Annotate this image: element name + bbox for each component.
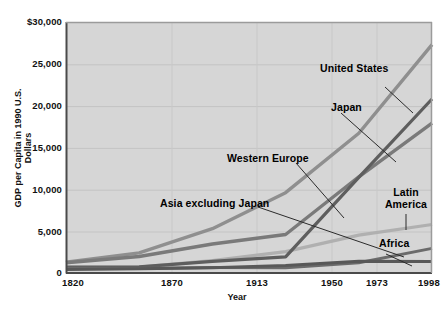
label-latin-america-line1: Latin [393,186,419,198]
x-tick-1950: 1950 [309,277,355,288]
x-axis-title: Year [0,292,444,302]
label-asia-excluding-japan: Asia excluding Japan [160,197,269,209]
gdp-per-capita-line-chart: $30,000 25,000 20,000 15,000 10,000 5,00… [0,0,444,314]
label-africa: Africa [379,237,409,249]
label-western-europe: Western Europe [227,152,309,164]
x-tick-1820: 1820 [50,277,96,288]
x-axis-title-text: Year [227,292,246,302]
x-tick-1870: 1870 [149,277,195,288]
x-tick-1973: 1973 [354,277,400,288]
y-tick-30000: $30,000 [4,16,62,27]
label-latin-america-line2: America [385,198,427,210]
gridlines [66,23,432,273]
label-united-states: United States [320,62,388,74]
x-tick-1913: 1913 [234,277,280,288]
y-tick-5000: 5,000 [4,226,62,237]
y-axis-title: GDP per Capita in 1990 U.S. Dollars [13,73,33,223]
label-latin-america: Latin America [377,186,435,210]
chart-canvas [0,0,444,314]
y-tick-25000: 25,000 [4,58,62,69]
x-tick-1998: 1998 [406,277,444,288]
label-japan: Japan [331,101,362,113]
